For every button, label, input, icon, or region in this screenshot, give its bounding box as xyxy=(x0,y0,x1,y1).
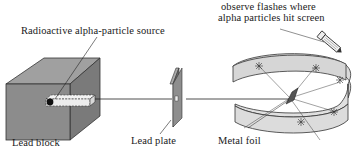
lead-block xyxy=(6,58,100,140)
microscope-icon xyxy=(317,31,344,55)
rutherford-apparatus-diagram: Radioactive alpha-particle source observ… xyxy=(0,0,364,150)
observe-label-line1: observe flashes where xyxy=(221,1,316,12)
lead-plate-label: Lead plate xyxy=(131,135,176,146)
radioactive-source-dot xyxy=(47,99,54,106)
lead-plate-leader-line xyxy=(160,120,171,134)
lead-plate xyxy=(170,68,190,127)
observe-leader-line xyxy=(280,29,324,42)
beam-channel xyxy=(46,95,95,106)
source-label: Radioactive alpha-particle source xyxy=(21,25,165,36)
metal-foil-label: Metal foil xyxy=(218,135,261,146)
lead-block-label: Lead block xyxy=(12,137,60,148)
observe-label-line2: alpha particles hit screen xyxy=(218,12,325,23)
